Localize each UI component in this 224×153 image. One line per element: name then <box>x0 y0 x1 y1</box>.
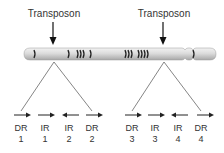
repeat-type-label: IR <box>151 123 161 133</box>
insertion-arrow-2 <box>160 22 167 45</box>
repeat-num-label: 4 <box>198 134 203 144</box>
arrow-dr3-right <box>125 113 142 118</box>
arrow-ir2-left <box>62 113 79 118</box>
arrow-dr1-right <box>14 113 31 118</box>
repeat-num-label: 4 <box>175 134 180 144</box>
insertion-arrow-1 <box>50 22 57 45</box>
transposon-label-1: Transposon <box>28 8 80 19</box>
repeat-num-label: 2 <box>89 134 94 144</box>
repeat-labels: DR 1 IR 1 IR 2 DR 2 DR 3 IR 3 IR 4 DR 4 <box>15 123 208 144</box>
repeat-num-label: 2 <box>66 134 71 144</box>
repeat-type-label: DR <box>126 123 139 133</box>
chromosome <box>24 48 216 60</box>
repeat-type-label: DR <box>86 123 99 133</box>
arrow-ir3-right <box>148 113 165 118</box>
arrow-ir1-right <box>38 113 55 118</box>
repeat-type-label: IR <box>41 123 51 133</box>
repeat-num-label: 3 <box>152 134 157 144</box>
arrow-ir4-left <box>171 113 188 118</box>
repeat-num-label: 1 <box>18 134 23 144</box>
repeat-num-label: 3 <box>129 134 134 144</box>
expansion-lines <box>21 62 201 111</box>
repeat-arrows <box>14 113 214 118</box>
repeat-type-label: IR <box>65 123 75 133</box>
repeat-type-label: IR <box>174 123 184 133</box>
repeat-type-label: DR <box>15 123 28 133</box>
transposon-diagram: Transposon Transposon <box>0 0 224 153</box>
arrow-dr2-right <box>86 113 103 118</box>
arrow-dr4-right <box>197 113 214 118</box>
transposon-label-2: Transposon <box>138 8 190 19</box>
repeat-type-label: DR <box>195 123 208 133</box>
repeat-num-label: 1 <box>42 134 47 144</box>
